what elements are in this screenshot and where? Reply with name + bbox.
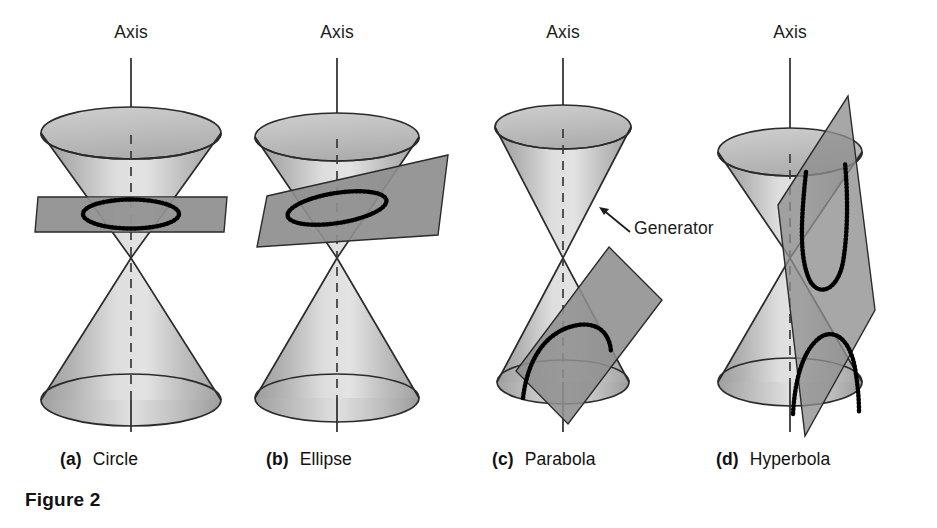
- panel-parabola-graphic: [495, 58, 662, 432]
- panel-name-circle: Circle: [93, 449, 138, 469]
- conic-sections-figure: Axis Axis Axis Axis Generator (a)Circle …: [0, 0, 937, 528]
- lower-nappe-b: [255, 258, 419, 398]
- panel-circle-graphic: [35, 58, 227, 432]
- panel-tag-circle: (a): [60, 449, 82, 469]
- panel-tag-hyperbola: (d): [716, 449, 739, 469]
- panel-tag-ellipse: (b): [266, 449, 289, 469]
- panel-name-parabola: Parabola: [525, 449, 596, 469]
- panel-name-hyperbola: Hyperbola: [750, 449, 831, 469]
- generator-arrow: [599, 207, 630, 232]
- panel-tag-parabola: (c): [492, 449, 514, 469]
- panel-name-ellipse: Ellipse: [300, 449, 352, 469]
- figure-caption: Figure 2: [25, 489, 101, 511]
- panel-caption-ellipse: (b)Ellipse: [266, 449, 352, 470]
- axis-label-parabola: Axis: [546, 22, 579, 43]
- panel-hyperbola-graphic: [718, 58, 875, 436]
- panel-ellipse-graphic: [255, 58, 448, 432]
- generator-label: Generator: [634, 218, 714, 239]
- axis-label-ellipse: Axis: [320, 22, 353, 43]
- panel-caption-hyperbola: (d)Hyperbola: [716, 449, 830, 470]
- panel-caption-parabola: (c)Parabola: [492, 449, 596, 470]
- panel-caption-circle: (a)Circle: [60, 449, 138, 470]
- axis-label-circle: Axis: [114, 22, 147, 43]
- axis-label-hyperbola: Axis: [773, 22, 806, 43]
